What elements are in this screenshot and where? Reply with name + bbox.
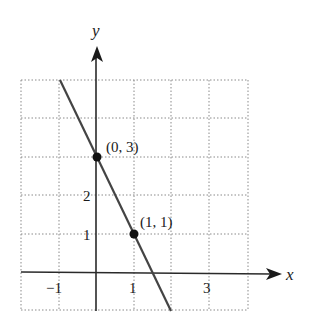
y-tick-label: 2: [83, 188, 91, 204]
y-axis-arrow-icon: [91, 46, 103, 62]
x-axis-label: x: [285, 265, 294, 284]
point-0-3: [93, 153, 102, 162]
point-label: (0, 3): [106, 139, 139, 156]
y-tick-label: 1: [83, 227, 91, 243]
x-tick-label: 1: [129, 280, 137, 296]
grid: [21, 80, 248, 310]
point-label: (1, 1): [140, 214, 173, 231]
point-1-1: [130, 230, 139, 239]
x-tick-label: −1: [46, 280, 62, 296]
y-axis-label: y: [90, 21, 100, 40]
coordinate-plane: x y −1 1 3 2 1 (0, 3) (1, 1): [0, 0, 311, 329]
x-tick-label: 3: [203, 280, 211, 296]
